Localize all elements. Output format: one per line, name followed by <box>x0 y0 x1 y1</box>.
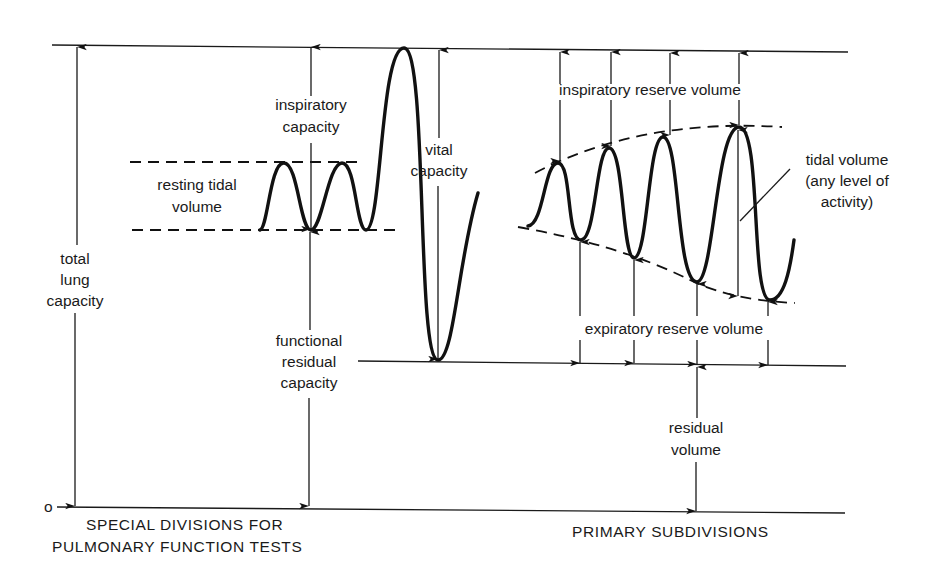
svg-text:functional: functional <box>276 332 342 349</box>
svg-text:inspiratory: inspiratory <box>275 96 347 113</box>
residual-volume-label: residual volume <box>669 419 723 458</box>
right-section-heading: PRIMARY SUBDIVISIONS <box>572 523 769 540</box>
resting-tidal-volume-label: resting tidal volume <box>157 176 236 215</box>
svg-text:vital: vital <box>425 141 453 158</box>
svg-text:total: total <box>60 250 89 267</box>
svg-text:(any level of: (any level of <box>805 172 889 189</box>
svg-text:capacity: capacity <box>411 162 468 179</box>
total-lung-capacity-line <box>52 45 848 52</box>
spirogram-left-trace <box>260 48 478 360</box>
left-section-heading-2: PULMONARY FUNCTION TESTS <box>52 538 302 555</box>
svg-text:capacity: capacity <box>47 292 104 309</box>
left-section-heading-1: SPECIAL DIVISIONS FOR <box>86 516 283 533</box>
svg-text:capacity: capacity <box>283 118 340 135</box>
tlc-label: total lung capacity <box>47 250 104 309</box>
expiratory-reserve-volume-label: expiratory reserve volume <box>585 320 763 337</box>
spirogram-right-trace <box>528 127 794 300</box>
lung-volumes-diagram: o total lung capacity resting tidal volu… <box>0 0 929 585</box>
inspiratory-capacity-label: inspiratory capacity <box>275 96 347 135</box>
inspiratory-reserve-volume-label: inspiratory reserve volume <box>559 81 741 98</box>
frc-line <box>358 361 846 366</box>
lower-envelope-dash <box>518 227 795 303</box>
zero-label: o <box>44 498 53 515</box>
svg-text:tidal volume: tidal volume <box>806 151 889 168</box>
svg-text:activity): activity) <box>821 193 874 210</box>
functional-residual-capacity-label: functional residual capacity <box>276 332 342 391</box>
svg-text:resting tidal: resting tidal <box>157 176 236 193</box>
tv-leader-line <box>740 169 790 221</box>
erv-arrows <box>580 242 768 365</box>
svg-text:residual: residual <box>282 353 336 370</box>
svg-text:residual: residual <box>669 419 723 436</box>
zero-baseline <box>57 507 845 513</box>
svg-text:lung: lung <box>60 271 89 288</box>
svg-text:capacity: capacity <box>281 374 338 391</box>
svg-text:volume: volume <box>172 198 222 215</box>
irv-arrows <box>560 52 739 161</box>
tidal-volume-label: tidal volume (any level of activity) <box>805 151 889 210</box>
svg-text:volume: volume <box>671 441 721 458</box>
